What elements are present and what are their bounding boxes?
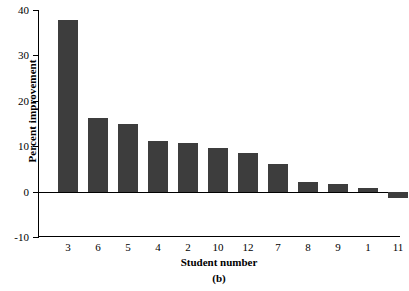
panel-caption: (b): [38, 272, 400, 284]
x-tick-label: 3: [65, 241, 71, 253]
bar: [298, 182, 318, 192]
y-axis-line: [38, 10, 39, 237]
zero-baseline: [38, 192, 400, 193]
y-tick-mark: [33, 237, 39, 238]
x-axis-title: Student number: [38, 256, 400, 268]
bar: [88, 118, 108, 192]
y-tick-label: 30: [18, 49, 29, 61]
y-tick-mark: [33, 55, 39, 56]
plot-area: -10010203040: [38, 8, 400, 237]
y-tick-label: 10: [18, 140, 29, 152]
bar: [58, 20, 78, 191]
x-tick-label: 9: [335, 241, 341, 253]
x-axis-line: [38, 236, 400, 237]
bar: [388, 192, 408, 199]
bar: [268, 164, 288, 191]
bar: [358, 188, 378, 191]
x-tick-label: 10: [213, 241, 224, 253]
x-tick-label: 8: [305, 241, 311, 253]
bar: [118, 124, 138, 192]
bar: [328, 184, 348, 191]
x-tick-label: 6: [95, 241, 101, 253]
bar-chart-figure: Percent improvement -10010203040 3654210…: [0, 0, 409, 291]
y-axis-title: Percent improvement: [26, 21, 38, 201]
x-tick-label: 4: [155, 241, 161, 253]
y-tick-mark: [33, 101, 39, 102]
y-tick-label: 40: [18, 4, 29, 16]
y-tick-mark: [33, 10, 39, 11]
x-tick-label: 1: [365, 241, 371, 253]
x-tick-label: 5: [125, 241, 131, 253]
bar: [208, 148, 228, 192]
x-tick-label: 7: [275, 241, 281, 253]
y-tick-label: -10: [14, 231, 29, 243]
bar: [178, 143, 198, 191]
y-tick-label: 0: [24, 186, 30, 198]
x-tick-label: 12: [243, 241, 254, 253]
bar: [148, 141, 168, 192]
x-tick-label: 2: [185, 241, 191, 253]
y-tick-label: 20: [18, 95, 29, 107]
bar: [238, 153, 258, 192]
x-tick-label: 11: [393, 241, 404, 253]
y-tick-mark: [33, 192, 39, 193]
y-tick-mark: [33, 146, 39, 147]
